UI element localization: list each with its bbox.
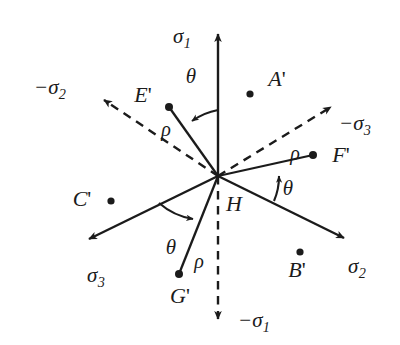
rho-label-G: ρ [194, 251, 204, 271]
axis-label-sigma1: σ1 [173, 26, 191, 50]
point-dot-F [309, 151, 317, 159]
point-dot-E [165, 103, 173, 111]
point-dot-C [107, 197, 114, 204]
axis-label-neg-sigma3: −σ3 [339, 113, 371, 137]
theta-arc-right [274, 176, 279, 201]
center-label-H: H [226, 193, 242, 215]
point-label-E: E' [134, 84, 151, 106]
theta-label-bottom: θ [166, 237, 176, 258]
rho-label-F: ρ [290, 143, 300, 163]
axis-label-neg-sigma1: −σ1 [238, 310, 270, 334]
point-label-B: B' [288, 259, 305, 281]
theta-arc-bottom [159, 203, 193, 219]
axis-label-sigma3: σ3 [87, 265, 105, 289]
stress-axes-diagram: σ1 σ2 σ3 −σ1 −σ2 −σ3 A' B' C' E' F' G' ρ… [0, 0, 400, 345]
axis-label-neg-sigma2: −σ2 [34, 77, 66, 101]
theta-arc-top [192, 110, 218, 121]
axis-sigma3-line [89, 176, 218, 239]
rho-segment-E [169, 107, 218, 176]
theta-label-top: θ [186, 66, 196, 87]
point-label-F: F' [332, 144, 349, 166]
point-dot-G [175, 270, 183, 278]
diagram-canvas [0, 0, 400, 345]
point-dot-B [296, 248, 303, 255]
point-label-G: G' [170, 285, 190, 307]
point-label-C: C' [73, 188, 92, 210]
theta-label-right: θ [283, 178, 293, 199]
point-dot-A [246, 90, 253, 97]
rho-label-E: ρ [161, 119, 171, 139]
point-label-A: A' [268, 68, 285, 90]
solid-axes-group [89, 34, 344, 239]
axis-neg-sigma3-line [218, 107, 331, 176]
axis-label-sigma2: σ2 [348, 256, 366, 280]
